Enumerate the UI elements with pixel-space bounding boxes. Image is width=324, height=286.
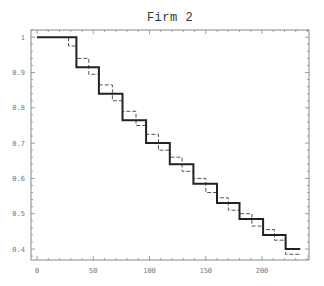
y-tick-label: 0.6 bbox=[12, 175, 25, 183]
axis-tick-labels: 0501001502000.40.50.60.70.80.91 bbox=[12, 34, 268, 275]
x-tick-label: 200 bbox=[256, 267, 269, 275]
chart-plot: 0501001502000.40.50.60.70.80.91 bbox=[0, 0, 324, 286]
y-tick-label: 1 bbox=[21, 34, 25, 42]
y-tick-label: 0.4 bbox=[12, 246, 25, 254]
x-tick-label: 50 bbox=[89, 267, 97, 275]
x-tick-label: 100 bbox=[143, 267, 156, 275]
x-tick-label: 150 bbox=[199, 267, 212, 275]
y-tick-label: 0.8 bbox=[12, 104, 25, 112]
y-tick-label: 0.7 bbox=[12, 140, 25, 148]
y-tick-label: 0.9 bbox=[12, 69, 25, 77]
x-tick-label: 0 bbox=[35, 267, 39, 275]
y-tick-label: 0.5 bbox=[12, 210, 25, 218]
solid-series-line bbox=[37, 37, 300, 249]
dashed-series-line bbox=[69, 37, 301, 254]
